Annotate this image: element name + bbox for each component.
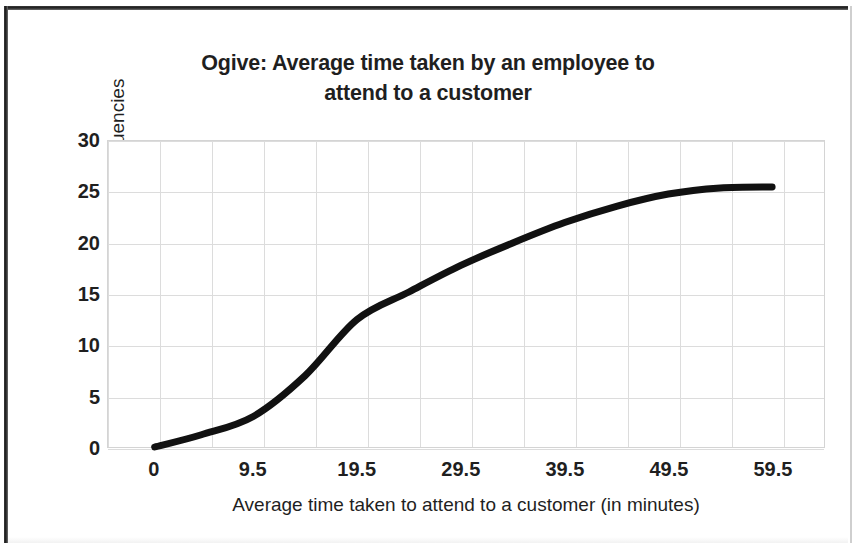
x-tick-label: 9.5	[208, 458, 298, 481]
x-axis-tick-labels: 09.519.529.539.549.559.5	[107, 458, 825, 490]
ogive-curve-path	[155, 187, 772, 447]
x-tick-label: 19.5	[312, 458, 402, 481]
scanned-page: Ogive: Average time taken by an employee…	[0, 0, 852, 543]
y-tick-label: 10	[54, 334, 100, 357]
y-tick-label: 5	[54, 385, 100, 408]
ogive-chart: Ogive: Average time taken by an employee…	[8, 10, 848, 538]
gridline-horizontal	[108, 449, 824, 450]
y-tick-label: 30	[54, 129, 100, 152]
y-tick-label: 25	[54, 180, 100, 203]
x-axis-title: Average time taken to attend to a custom…	[107, 494, 825, 516]
chart-title: Ogive: Average time taken by an employee…	[68, 48, 788, 108]
ogive-curve-svg	[108, 141, 824, 447]
x-tick-label: 49.5	[624, 458, 714, 481]
x-tick-label: 59.5	[728, 458, 818, 481]
plot-area	[107, 140, 825, 448]
y-tick-label: 15	[54, 283, 100, 306]
chart-title-line-2: attend to a customer	[68, 78, 788, 108]
x-tick-label: 39.5	[520, 458, 610, 481]
y-tick-label: 0	[54, 437, 100, 460]
x-tick-label: 29.5	[416, 458, 506, 481]
chart-title-line-1: Ogive: Average time taken by an employee…	[68, 48, 788, 78]
x-tick-label: 0	[109, 458, 199, 481]
y-axis-tick-labels: 051015202530	[46, 140, 100, 448]
y-tick-label: 20	[54, 231, 100, 254]
